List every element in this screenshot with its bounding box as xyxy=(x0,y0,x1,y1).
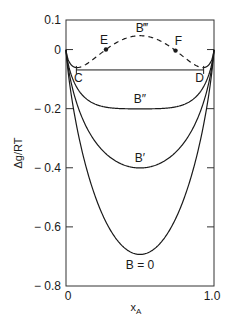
y-tick-label: − 0.8 xyxy=(34,279,61,293)
curve-label: B = 0 xyxy=(126,258,155,272)
x-axis-label-sub: A xyxy=(136,307,142,316)
curve-label: B‴ xyxy=(136,21,149,35)
point-d-label: D xyxy=(195,71,204,85)
x-axis-label: xA xyxy=(131,301,143,316)
point-c-label: C xyxy=(74,71,83,85)
curve-label: B′ xyxy=(135,151,146,165)
x-axis-ticks: 01.0 xyxy=(65,289,221,303)
curve-label: B″ xyxy=(134,92,147,106)
y-tick-label: − 0.4 xyxy=(34,161,61,175)
x-tick-label: 0 xyxy=(65,289,72,303)
curve-b3-dashed xyxy=(76,36,203,68)
point-f-marker xyxy=(173,48,177,52)
y-tick-label: − 0.2 xyxy=(34,102,61,116)
y-tick-label: 0 xyxy=(54,43,61,57)
y-axis-label: Δg/RT xyxy=(12,137,24,168)
x-tick-label: 1.0 xyxy=(204,289,221,303)
curves: B = 0B′B″B‴ xyxy=(66,21,214,273)
mixing-free-energy-chart: 0.10− 0.2− 0.4− 0.6− 0.8 01.0 B = 0B′B″B… xyxy=(0,0,230,329)
y-axis-ticks: 0.10− 0.2− 0.4− 0.6− 0.8 xyxy=(34,13,214,293)
point-f-label: F xyxy=(175,34,182,48)
y-tick-label: − 0.6 xyxy=(34,220,61,234)
point-e-label: E xyxy=(100,33,108,47)
point-e-marker xyxy=(104,47,108,51)
y-tick-label: 0.1 xyxy=(44,13,61,27)
